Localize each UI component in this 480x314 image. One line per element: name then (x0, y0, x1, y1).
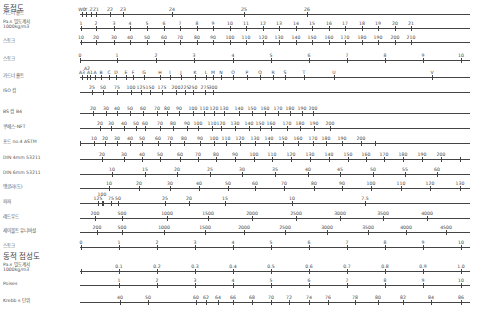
tick-label: 210 (407, 35, 416, 40)
scale-tick (226, 141, 227, 146)
tick-label: 15 (309, 21, 315, 26)
tick-label: 40 (127, 136, 133, 141)
tick-label: 40 (196, 181, 202, 186)
scale-tick (252, 300, 253, 305)
scale-tick (263, 40, 264, 45)
scale-tick (180, 40, 181, 45)
tick-label: 120 (287, 152, 296, 157)
scale-tick (164, 26, 165, 31)
tick-label: 4500 (440, 225, 452, 230)
scale-tick (167, 111, 168, 116)
tick-label: 0.7 (343, 264, 350, 269)
scale-tick (197, 40, 198, 45)
tick-label: 2 (155, 53, 158, 58)
scale-tick (460, 186, 461, 191)
tick-label: 90 (176, 106, 182, 111)
tick-label: 30 (111, 35, 117, 40)
tick-label: Z4 (169, 7, 175, 12)
scale-tick (126, 75, 127, 80)
scale-tick (284, 186, 285, 191)
scale-tick (275, 172, 276, 177)
tick-label: 5 (146, 21, 149, 26)
tick-label: 3 (113, 21, 116, 26)
tick-label: T (303, 70, 306, 75)
tick-label: 4 (232, 240, 235, 245)
scale-tick (81, 245, 82, 250)
scale-label: 스토크 (3, 38, 15, 43)
scale-tick (313, 141, 314, 146)
scale-axis: 2030405060708090100110120130140150160170… (80, 107, 470, 119)
tick-label: 40 (139, 152, 145, 157)
tick-label: 15 (142, 167, 148, 172)
tick-label: 50 (225, 181, 231, 186)
tick-label: 150 (146, 85, 155, 90)
tick-label: 90 (339, 181, 345, 186)
scale-tick (460, 157, 461, 162)
scale-tick (210, 172, 211, 177)
scale-tick (366, 157, 367, 162)
tick-label: 110 (268, 152, 277, 157)
scale-tick (119, 283, 120, 288)
scale-tick (205, 230, 206, 235)
scale-tick (96, 40, 97, 45)
tick-label: 25 (89, 85, 95, 90)
tick-label: 160 (294, 136, 303, 141)
tick-label: 170 (380, 152, 389, 157)
tick-label: 30 (121, 152, 127, 157)
scale-tick (244, 12, 245, 17)
scale-tick (103, 90, 104, 95)
tick-label: 30 (114, 136, 120, 141)
scale-tick (181, 75, 182, 80)
scale-tick (347, 283, 348, 288)
tick-label: 62 (203, 295, 209, 300)
tick-label: 0 (79, 53, 82, 58)
tick-label: 90 (210, 35, 216, 40)
section-title-dynamic: 동적 점성도 (3, 250, 40, 261)
scale-tick (411, 26, 412, 31)
tick-label: 9 (212, 21, 215, 26)
tick-label: 170 (283, 121, 292, 126)
scale-label: 스토크 (3, 243, 15, 248)
tick-label: 100 (194, 121, 203, 126)
scale-tick (221, 75, 222, 80)
scale-tick (199, 186, 200, 191)
scale-tick (375, 141, 376, 146)
scale-tick (105, 141, 106, 146)
scale-tick (81, 269, 82, 274)
scale-tick (195, 75, 196, 80)
scale-tick (117, 58, 118, 63)
tick-label: 19 (375, 21, 381, 26)
tick-label: 7 (346, 240, 349, 245)
scale-tick (348, 157, 349, 162)
scale-tick (411, 40, 412, 45)
tick-label: 0.9 (419, 264, 426, 269)
tick-label: 0.5 (267, 264, 274, 269)
tick-label: 180 (358, 35, 367, 40)
scale-tick (95, 216, 96, 221)
tick-label: Q (258, 70, 262, 75)
scale-label: BS 컵 B4 (3, 109, 22, 114)
tick-label: 50 (144, 35, 150, 40)
tick-label: 86 (458, 295, 464, 300)
tick-label: 190 (338, 136, 347, 141)
tick-label: 180 (322, 136, 331, 141)
scale-tick (204, 111, 205, 116)
tick-label: 3500 (362, 225, 374, 230)
scale-tick (271, 269, 272, 274)
tick-label: 20 (99, 152, 105, 157)
tick-label: Z3 (120, 7, 126, 12)
tick-label: 100 (226, 35, 235, 40)
scale-tick (136, 126, 137, 131)
scale-tick (283, 141, 284, 146)
scale-tick (145, 126, 146, 131)
tick-label: Y (85, 7, 88, 12)
scale-tick (225, 201, 226, 206)
tick-label: 72 (286, 295, 292, 300)
tick-label: 200 (391, 35, 400, 40)
tick-label: 125 (137, 85, 146, 90)
scale-tick (147, 26, 148, 31)
scale-tick (158, 141, 159, 146)
tick-label: 130 (251, 136, 260, 141)
tick-label: 25 (207, 167, 213, 172)
scale-tick (378, 300, 379, 305)
